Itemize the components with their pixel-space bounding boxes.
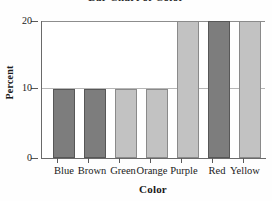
bar-blue — [53, 89, 75, 158]
y-axis-title: Percent — [4, 53, 15, 113]
chart-title: Bar Chart of Color — [0, 0, 272, 3]
x-tick-mark-6 — [243, 158, 244, 163]
x-tick-mark-3 — [150, 158, 151, 163]
x-tick-mark-1 — [88, 158, 89, 163]
x-tick-mark-0 — [57, 158, 58, 163]
chart-title-clipped: Bar Chart of Color — [0, 0, 272, 5]
bar-brown — [84, 89, 106, 158]
chart-figure: Bar Chart of Color 20 10 0 Percent Blue … — [0, 0, 272, 201]
y-tick-mark-0 — [31, 158, 38, 159]
x-tick-mark-2 — [119, 158, 120, 163]
x-tick-label-yellow: Yellow — [222, 165, 268, 177]
bar-red — [208, 21, 230, 158]
bar-series — [41, 21, 265, 158]
x-tick-mark-4 — [181, 158, 182, 163]
y-tick-label-0: 0 — [0, 153, 32, 163]
y-tick-label-20: 20 — [0, 16, 32, 26]
y-tick-mark-20 — [31, 21, 38, 22]
x-axis-line — [41, 158, 266, 159]
y-tick-mark-10 — [31, 88, 38, 89]
x-axis-title: Color — [41, 183, 265, 195]
x-tick-mark-5 — [212, 158, 213, 163]
bar-orange — [146, 89, 168, 158]
bar-green — [115, 89, 137, 158]
bar-yellow — [239, 21, 261, 158]
bar-purple — [177, 21, 199, 158]
